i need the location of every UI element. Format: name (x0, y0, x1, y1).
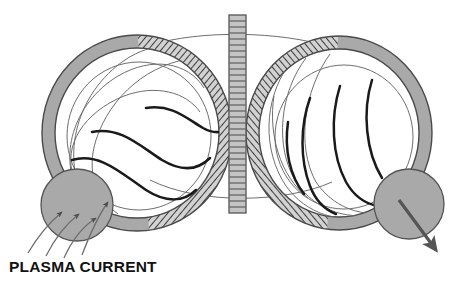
central-hatched-column (229, 15, 246, 213)
plasma-current-diagram: PLASMA CURRENT (0, 0, 456, 287)
plasma-current-outflow-region (374, 169, 444, 250)
plasma-current-inflow-region (28, 169, 113, 258)
left-blob-circle (41, 169, 113, 241)
diagram-canvas (0, 0, 456, 287)
plasma-current-caption: PLASMA CURRENT (9, 258, 157, 276)
right-blob-circle (374, 169, 444, 239)
